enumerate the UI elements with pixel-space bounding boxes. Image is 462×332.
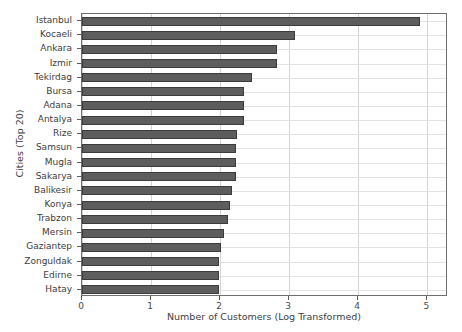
y-tick-label-mugla: Mugla <box>45 157 72 167</box>
y-tick-mark <box>77 147 81 148</box>
x-tick-mark <box>219 296 220 300</box>
bar-hatay <box>82 285 219 294</box>
x-tick-mark <box>81 296 82 300</box>
y-axis-title: Cities (Top 20) <box>14 89 25 199</box>
y-tick-mark <box>77 34 81 35</box>
y-tick-label-gaziantep: Gaziantep <box>26 241 72 251</box>
gridline-vertical-1 <box>151 14 152 295</box>
x-tick-label-5: 5 <box>423 301 429 311</box>
bar-konya <box>82 201 230 210</box>
bar-rize <box>82 130 237 139</box>
x-tick-label-0: 0 <box>78 301 84 311</box>
y-tick-mark <box>77 261 81 262</box>
x-tick-label-3: 3 <box>285 301 291 311</box>
y-tick-label-konya: Konya <box>44 199 72 209</box>
bar-edirne <box>82 271 219 280</box>
y-tick-label-ankara: Ankara <box>40 43 72 53</box>
bar-bursa <box>82 87 244 96</box>
y-tick-mark <box>77 63 81 64</box>
y-tick-label-trabzon: Trabzon <box>37 213 72 223</box>
y-tick-label-bursa: Bursa <box>46 86 72 96</box>
y-tick-mark <box>77 20 81 21</box>
bar-chart-figure: 012345 IstanbulKocaeliAnkaraIzmirTekirda… <box>0 0 462 332</box>
y-tick-label-tekirdag: Tekirdag <box>34 72 72 82</box>
bar-zonguldak <box>82 257 219 266</box>
y-tick-label-izmir: Izmir <box>50 58 72 68</box>
y-tick-mark <box>77 218 81 219</box>
y-tick-mark <box>77 204 81 205</box>
gridline-vertical-4 <box>358 14 359 295</box>
bar-samsun <box>82 144 236 153</box>
gridline-vertical-2 <box>220 14 221 295</box>
x-tick-label-1: 1 <box>147 301 153 311</box>
y-tick-mark <box>77 48 81 49</box>
y-tick-label-balikesir: Balikesir <box>34 185 72 195</box>
gridline-vertical-5 <box>427 14 428 295</box>
gridline-vertical-3 <box>289 14 290 295</box>
y-tick-mark <box>77 232 81 233</box>
bar-adana <box>82 101 244 110</box>
x-axis-title: Number of Customers (Log Transformed) <box>81 311 447 322</box>
y-tick-mark <box>77 275 81 276</box>
y-tick-mark <box>77 119 81 120</box>
bar-kocaeli <box>82 31 295 40</box>
y-tick-mark <box>77 246 81 247</box>
x-tick-label-4: 4 <box>354 301 360 311</box>
bar-istanbul <box>82 17 420 26</box>
y-tick-mark <box>77 77 81 78</box>
bar-balikesir <box>82 186 232 195</box>
y-tick-label-sakarya: Sakarya <box>36 171 72 181</box>
bar-gaziantep <box>82 243 221 252</box>
y-tick-label-samsun: Samsun <box>36 142 72 152</box>
bar-mugla <box>82 158 236 167</box>
x-tick-mark <box>426 296 427 300</box>
y-tick-label-adana: Adana <box>44 100 72 110</box>
y-tick-mark <box>77 176 81 177</box>
y-tick-mark <box>77 91 81 92</box>
x-tick-mark <box>357 296 358 300</box>
bar-trabzon <box>82 215 228 224</box>
y-tick-label-rize: Rize <box>53 128 72 138</box>
bar-tekirdag <box>82 73 252 82</box>
y-tick-label-mersin: Mersin <box>42 227 72 237</box>
x-tick-label-2: 2 <box>216 301 222 311</box>
y-axis-tick-labels: IstanbulKocaeliAnkaraIzmirTekirdagBursaA… <box>0 0 72 332</box>
y-tick-label-antalya: Antalya <box>38 114 72 124</box>
gridline-vertical-0 <box>82 14 83 295</box>
y-tick-mark <box>77 162 81 163</box>
bar-sakarya <box>82 172 236 181</box>
bar-antalya <box>82 116 244 125</box>
x-tick-mark <box>288 296 289 300</box>
bar-ankara <box>82 45 277 54</box>
y-tick-mark <box>77 105 81 106</box>
x-tick-mark <box>150 296 151 300</box>
y-tick-mark <box>77 133 81 134</box>
y-tick-label-hatay: Hatay <box>45 284 72 294</box>
bar-izmir <box>82 59 277 68</box>
bar-mersin <box>82 229 224 238</box>
y-tick-label-zonguldak: Zonguldak <box>24 256 72 266</box>
y-tick-mark <box>77 190 81 191</box>
plot-area <box>81 13 447 296</box>
y-tick-label-istanbul: Istanbul <box>36 15 72 25</box>
y-tick-label-edirne: Edirne <box>43 270 72 280</box>
y-tick-mark <box>77 289 81 290</box>
y-tick-label-kocaeli: Kocaeli <box>40 29 72 39</box>
